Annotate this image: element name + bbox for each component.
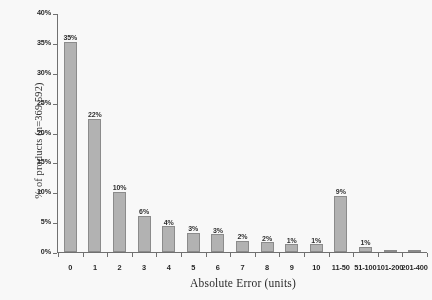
- bar-series: 35%22%10%6%4%3%3%2%2%1%1%9%1%: [58, 14, 427, 252]
- y-axis-tick-mark: [53, 223, 57, 224]
- y-axis-tick-label: 35%: [37, 38, 51, 47]
- x-axis-tick-label: 1: [93, 263, 97, 272]
- bar[interactable]: 2%: [261, 242, 274, 252]
- bar[interactable]: 9%: [334, 196, 347, 252]
- x-axis-tick: 101-200: [378, 253, 403, 277]
- x-axis-tick: 9: [279, 253, 304, 277]
- x-axis-tick-label: 11-50: [332, 263, 350, 272]
- x-axis-tick-label: 6: [216, 263, 220, 272]
- x-axis-tick-mark: [58, 253, 59, 257]
- x-axis-tick: 4: [156, 253, 181, 277]
- bar-value-label: 22%: [88, 111, 102, 118]
- y-axis-tick-label: 10%: [37, 187, 51, 196]
- x-axis-tick-label: 7: [240, 263, 244, 272]
- bar-value-label: 35%: [63, 34, 77, 41]
- bar-value-label: 9%: [336, 188, 346, 195]
- bar[interactable]: 2%: [236, 241, 249, 252]
- y-axis-tick-mark: [53, 74, 57, 75]
- x-axis-tick-mark: [279, 253, 280, 257]
- bar-slot: [378, 14, 403, 252]
- bar[interactable]: 6%: [138, 216, 151, 252]
- x-axis-tick: 3: [132, 253, 157, 277]
- x-axis-tick-label: 5: [191, 263, 195, 272]
- bar-value-label: 2%: [237, 233, 247, 240]
- bar-slot: 35%: [58, 14, 83, 252]
- bar-slot: 3%: [181, 14, 206, 252]
- bar[interactable]: [408, 250, 421, 252]
- y-axis-tick-mark: [53, 14, 57, 15]
- x-axis-tick-mark: [156, 253, 157, 257]
- bar-value-label: 3%: [188, 225, 198, 232]
- bar[interactable]: 10%: [113, 192, 126, 252]
- y-axis-tick-label: 30%: [37, 68, 51, 77]
- bar[interactable]: 1%: [310, 244, 323, 252]
- bar-value-label: 3%: [213, 227, 223, 234]
- x-axis-tick-mark: [353, 253, 354, 257]
- bar-slot: 4%: [156, 14, 181, 252]
- bar[interactable]: 4%: [162, 226, 175, 252]
- bar-value-label: 2%: [262, 235, 272, 242]
- bar-slot: 1%: [279, 14, 304, 252]
- x-axis-title: Absolute Error (units): [57, 277, 429, 289]
- x-axis-tick: 11-50: [329, 253, 354, 277]
- bar-slot: 1%: [304, 14, 329, 252]
- x-axis-tick-mark: [230, 253, 231, 257]
- x-axis-tick: 0: [58, 253, 83, 277]
- y-axis-tick-label: 0%: [41, 247, 51, 256]
- bar-value-label: 4%: [164, 219, 174, 226]
- y-axis-tick-mark: [53, 253, 57, 254]
- bar-chart-figure: % of products (n=369,592) 0%5%10%15%20%2…: [0, 0, 432, 300]
- x-axis-tick: 201-400: [402, 253, 427, 277]
- bar-slot: [402, 14, 427, 252]
- x-axis-tick-label: 4: [167, 263, 171, 272]
- bar-value-label: 10%: [113, 184, 127, 191]
- y-axis-tick-label: 5%: [41, 217, 51, 226]
- x-axis-tick-label: 51-100: [354, 263, 376, 272]
- x-axis-tick-label: 101-200: [377, 263, 403, 272]
- x-axis-tick: 51-100: [353, 253, 378, 277]
- x-axis-tick: 2: [107, 253, 132, 277]
- x-axis-tick-mark: [181, 253, 182, 257]
- bar-value-label: 1%: [287, 237, 297, 244]
- x-axis-tick: 7: [230, 253, 255, 277]
- x-axis-tick-label: 3: [142, 263, 146, 272]
- x-axis-tick-label: 9: [290, 263, 294, 272]
- x-axis-tick-mark: [206, 253, 207, 257]
- bar[interactable]: [384, 250, 397, 252]
- y-axis-tick-mark: [53, 163, 57, 164]
- y-axis-tick-label: 40%: [37, 8, 51, 17]
- x-axis-tick-mark: [83, 253, 84, 257]
- x-axis-tick-mark: [107, 253, 108, 257]
- x-axis-tick: 5: [181, 253, 206, 277]
- bar[interactable]: 3%: [187, 233, 200, 252]
- x-axis-tick-label: 8: [265, 263, 269, 272]
- y-axis-tick-mark: [53, 44, 57, 45]
- bar-slot: 1%: [353, 14, 378, 252]
- x-axis-tick-mark: [255, 253, 256, 257]
- x-axis-tick: 8: [255, 253, 280, 277]
- x-axis-tick-end: [427, 253, 428, 257]
- y-axis-tick-mark: [53, 193, 57, 194]
- bar-slot: 3%: [206, 14, 231, 252]
- bar[interactable]: 1%: [285, 244, 298, 252]
- x-axis-tick: 10: [304, 253, 329, 277]
- x-axis-tick-label: 2: [117, 263, 121, 272]
- bar[interactable]: 3%: [211, 234, 224, 252]
- y-axis-tick-label: 25%: [37, 98, 51, 107]
- x-axis-ticks: 01234567891011-5051-100101-200201-400: [58, 253, 427, 277]
- x-axis-tick-label: 201-400: [401, 263, 427, 272]
- bar[interactable]: 35%: [64, 42, 77, 252]
- bar[interactable]: 22%: [88, 119, 101, 252]
- bar[interactable]: 1%: [359, 247, 372, 252]
- bar-value-label: 1%: [360, 239, 370, 246]
- x-axis-tick-mark: [329, 253, 330, 257]
- bar-slot: 22%: [83, 14, 108, 252]
- x-axis-tick-mark: [304, 253, 305, 257]
- x-axis-tick-label: 0: [68, 263, 72, 272]
- y-axis-tick-label: 20%: [37, 128, 51, 137]
- y-axis-tick-mark: [53, 104, 57, 105]
- y-axis-tick-mark: [53, 134, 57, 135]
- x-axis-tick-label: 10: [312, 263, 320, 272]
- bar-slot: 10%: [107, 14, 132, 252]
- plot-area: 0%5%10%15%20%25%30%35%40% 35%22%10%6%4%3…: [57, 14, 427, 253]
